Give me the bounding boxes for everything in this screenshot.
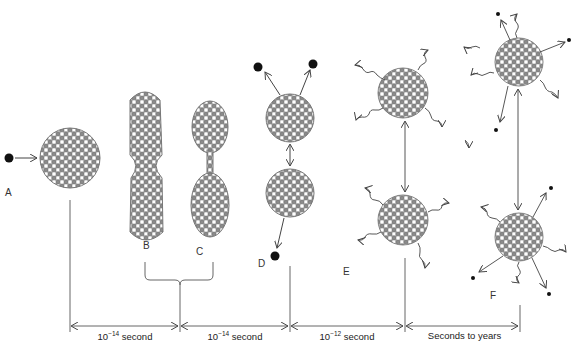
- stage-label-e: E: [343, 266, 350, 277]
- timeline-label-3: 10−12 second: [302, 330, 392, 342]
- stage-b: [130, 92, 163, 240]
- timeline-label-4: Seconds to years: [412, 330, 517, 341]
- stage-d: [254, 60, 318, 261]
- neutron-icon: [5, 154, 14, 163]
- stage-f: [471, 12, 571, 296]
- nucleus: [40, 128, 100, 188]
- fission-diagram: [0, 0, 587, 347]
- timeline-label-2: 10−14 second: [190, 330, 280, 342]
- stage-label-c: C: [196, 246, 203, 257]
- stage-a: [5, 128, 101, 188]
- timeline-label-1: 10−14 second: [80, 330, 170, 342]
- stage-e: [355, 46, 480, 268]
- stage-label-a: A: [5, 187, 12, 198]
- stage-label-d: D: [258, 258, 265, 269]
- elongated-nucleus: [130, 92, 163, 240]
- stage-label-f: F: [490, 290, 496, 301]
- stage-label-b: B: [143, 240, 150, 251]
- stage-c: [191, 101, 229, 237]
